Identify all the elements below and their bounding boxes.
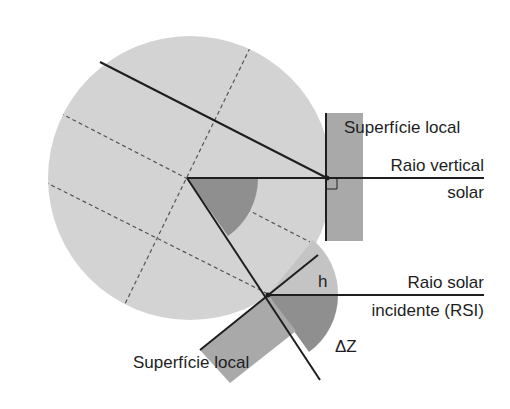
label-incident-ray-1: Raio solar: [407, 273, 484, 292]
label-angle-h: h: [318, 272, 327, 291]
solar-geometry-diagram: Superfície local Raio vertical solar Rai…: [0, 0, 510, 409]
intersection-dot-top: [325, 176, 330, 181]
label-surface-top: Superfície local: [344, 118, 460, 137]
label-incident-ray-2: incidente (RSI): [372, 301, 484, 320]
label-vertical-ray-1: Raio vertical: [390, 156, 484, 175]
intersection-dot-bottom: [266, 293, 271, 298]
label-angle-delta-z: ΔZ: [335, 337, 357, 356]
label-surface-bottom: Superfície local: [133, 353, 249, 372]
label-vertical-ray-2: solar: [447, 183, 484, 202]
